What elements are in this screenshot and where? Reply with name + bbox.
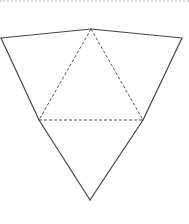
edge-inner_right-bottom_tip (90, 120, 143, 200)
dashed-fold-lines (39, 29, 143, 120)
pyramid-net-diagram (0, 0, 189, 224)
edge-outer_right-inner_right (143, 38, 182, 120)
fold-line-apex_top-inner_left (39, 29, 91, 120)
edge-outer_left-apex_top (1, 29, 91, 38)
edge-inner_left-bottom_tip (39, 120, 90, 200)
edge-apex_top-outer_right (91, 29, 182, 38)
fold-line-apex_top-inner_right (91, 29, 143, 120)
solid-edges (1, 29, 182, 200)
edge-outer_left-inner_left (1, 38, 39, 120)
